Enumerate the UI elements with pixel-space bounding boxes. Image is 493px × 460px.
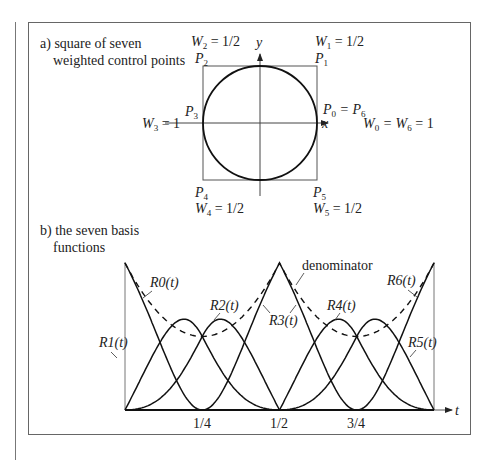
point-p1-label: P1 [314, 51, 328, 68]
curve-label-r4: R4(t) [326, 298, 356, 320]
basis-functions-plot: t 1/4 1/2 3/4 R0(t) R1(t) R2(t) R3(t) R4… [98, 258, 460, 431]
point-p4-label: P4 [194, 185, 209, 202]
denominator-label: denominator [296, 258, 373, 285]
svg-text:denominator: denominator [302, 258, 373, 273]
tick-label-1-2: 1/2 [270, 416, 288, 431]
svg-text:R0(t): R0(t) [149, 275, 179, 291]
curve-label-r6: R6(t) [386, 273, 417, 297]
control-square-panel: x y W2 = 1/2 P2 W1 = 1/2 P1 P3 W3 = 1 P0… [142, 34, 434, 218]
t-axis-label: t [455, 403, 460, 418]
weight-w1-label: W1 = 1/2 [315, 34, 364, 51]
x-axis-label: x [321, 116, 329, 131]
tick-label-1-4: 1/4 [193, 416, 211, 431]
svg-text:R1(t): R1(t) [98, 335, 128, 351]
point-p2-label: P2 [194, 51, 208, 68]
curve-label-r3: R3(t) [263, 305, 298, 329]
weight-w5-label: W5 = 1/2 [313, 201, 362, 218]
svg-text:R6(t): R6(t) [386, 273, 416, 289]
basis-curve-r5 [125, 319, 434, 410]
curve-label-r1: R1(t) [98, 335, 128, 358]
basis-curve-r1 [125, 319, 434, 410]
svg-text:R4(t): R4(t) [326, 298, 356, 314]
weight-w2-label: W2 = 1/2 [191, 34, 240, 51]
tick-label-3-4: 3/4 [347, 416, 365, 431]
diagram-svg: x y W2 = 1/2 P2 W1 = 1/2 P1 P3 W3 = 1 P0… [0, 0, 493, 460]
point-p5-label: P5 [312, 185, 327, 202]
basis-curve-r2 [125, 319, 434, 410]
curve-label-r0: R0(t) [143, 275, 179, 298]
weight-w0-w6-label: W0 = W6 = 1 [363, 116, 434, 133]
svg-text:R3(t): R3(t) [268, 313, 298, 329]
curve-label-r5: R5(t) [407, 335, 437, 357]
curve-label-r2: R2(t) [209, 298, 239, 320]
svg-text:R2(t): R2(t) [209, 298, 239, 314]
weight-w4-label: W4 = 1/2 [195, 201, 244, 218]
point-p0-p6-label: P0 = P6 [322, 102, 366, 119]
point-p3-label: P3 [184, 104, 199, 121]
basis-curve-r4 [125, 319, 434, 410]
svg-text:R5(t): R5(t) [407, 335, 437, 351]
weight-w3-label: W3 = 1 [142, 116, 180, 133]
y-axis-label: y [254, 35, 263, 50]
